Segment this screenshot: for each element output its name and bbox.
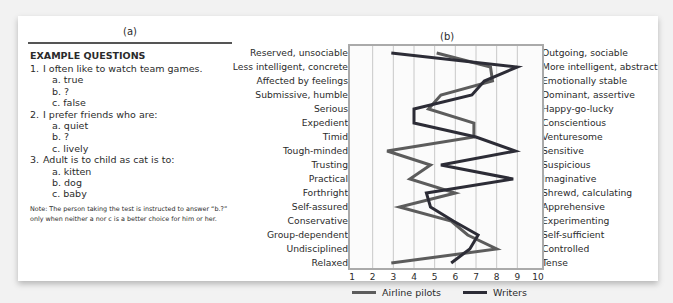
left-trait-label: Conservative — [233, 214, 348, 228]
legend-item-pilots: Airline pilots — [352, 287, 441, 298]
right-trait-label: Emotionally stable — [542, 74, 658, 88]
x-tick-label: 10 — [532, 272, 543, 282]
question-number: 1. — [30, 63, 40, 74]
question-list: 1. I often like to watch team games.a. t… — [30, 63, 230, 200]
plot-area — [349, 45, 543, 269]
right-trait-label: Dominant, assertive — [542, 88, 658, 102]
right-trait-label: Outgoing, sociable — [542, 46, 658, 60]
answer-option: c. false — [30, 97, 230, 108]
x-tick-label: 7 — [473, 272, 479, 282]
left-trait-label: Submissive, humble — [233, 88, 348, 102]
x-tick-label: 3 — [390, 272, 396, 282]
question-number: 2. — [30, 109, 40, 120]
panel-a-title: (a) — [30, 26, 230, 37]
x-tick-label: 8 — [494, 272, 500, 282]
writers-line-swatch — [463, 291, 487, 294]
pilots-line-swatch — [352, 291, 376, 294]
right-trait-label: Shrewd, calculating — [542, 186, 658, 200]
answer-option: a. true — [30, 74, 230, 85]
legend: Airline pilots Writers — [352, 287, 549, 298]
question-item: 3. Adult is to child as cat is to: — [30, 154, 230, 165]
answer-option: b. ? — [30, 86, 230, 97]
legend-label-pilots: Airline pilots — [382, 287, 441, 298]
left-trait-label: Serious — [233, 102, 348, 116]
legend-item-writers: Writers — [463, 287, 527, 298]
x-tick-label: 2 — [370, 272, 376, 282]
right-trait-label: Tense — [542, 256, 658, 270]
right-trait-label: Apprehensive — [542, 200, 658, 214]
left-trait-label: Affected by feelings — [233, 74, 348, 88]
left-trait-label: Forthright — [233, 186, 348, 200]
right-trait-label: Venturesome — [542, 130, 658, 144]
question-text: Adult is to child as cat is to: — [43, 154, 174, 165]
left-trait-labels: Reserved, unsociableLess intelligent, co… — [233, 46, 348, 270]
left-trait-label: Trusting — [233, 158, 348, 172]
left-trait-label: Tough-minded — [233, 144, 348, 158]
right-trait-label: Conscientious — [542, 116, 658, 130]
answer-option: b. ? — [30, 131, 230, 142]
x-tick-label: 1 — [349, 272, 355, 282]
answer-option: b. dog — [30, 177, 230, 188]
x-tick-label: 5 — [432, 272, 438, 282]
right-trait-label: Self-sufficient — [542, 228, 658, 242]
x-tick-label: 4 — [411, 272, 417, 282]
question-item: 2. I prefer friends who are: — [30, 109, 230, 120]
note-text: Note: The person taking the test is inst… — [30, 204, 230, 224]
left-trait-label: Expedient — [233, 116, 348, 130]
question-item: 1. I often like to watch team games. — [30, 63, 230, 74]
left-trait-label: Relaxed — [233, 256, 348, 270]
left-trait-label: Reserved, unsociable — [233, 46, 348, 60]
right-trait-label: Sensitive — [542, 144, 658, 158]
x-tick-label: 6 — [452, 272, 458, 282]
left-trait-label: Less intelligent, concrete — [233, 60, 348, 74]
answer-option: a. kitten — [30, 166, 230, 177]
question-text: I often like to watch team games. — [43, 63, 202, 74]
left-trait-label: Timid — [233, 130, 348, 144]
answer-option: a. quiet — [30, 120, 230, 131]
right-trait-label: Suspicious — [542, 158, 658, 172]
x-tick-label: 9 — [514, 272, 520, 282]
right-trait-label: Controlled — [542, 242, 658, 256]
left-trait-label: Practical — [233, 172, 348, 186]
left-trait-label: Self-assured — [233, 200, 348, 214]
question-number: 3. — [30, 154, 40, 165]
example-questions-heading: EXAMPLE QUESTIONS — [30, 50, 230, 61]
panel-b-title: (b) — [440, 31, 454, 42]
panel-a: (a) EXAMPLE QUESTIONS 1. I often like to… — [30, 26, 230, 224]
right-trait-labels: Outgoing, sociableMore intelligent, abst… — [542, 46, 658, 270]
answer-option: c. lively — [30, 143, 230, 154]
answer-option: c. baby — [30, 188, 230, 199]
left-trait-label: Undisciplined — [233, 242, 348, 256]
divider — [28, 42, 232, 44]
right-trait-label: Happy-go-lucky — [542, 102, 658, 116]
right-trait-label: More intelligent, abstract — [542, 60, 658, 74]
personality-profile-chart — [348, 44, 544, 270]
left-trait-label: Group-dependent — [233, 228, 348, 242]
right-trait-label: Experimenting — [542, 214, 658, 228]
right-trait-label: Imaginative — [542, 172, 658, 186]
legend-label-writers: Writers — [493, 287, 527, 298]
question-text: I prefer friends who are: — [43, 109, 157, 120]
